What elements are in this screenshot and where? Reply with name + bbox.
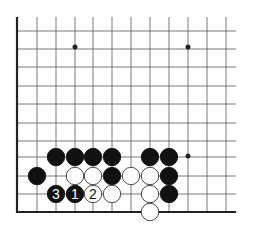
black-stone-1: 1 [66, 185, 83, 202]
black-stone-icon [141, 148, 158, 165]
white-stone [103, 185, 120, 202]
black-stone-icon [103, 167, 120, 184]
move-number: 1 [71, 186, 79, 202]
white-stone-icon [141, 203, 158, 220]
white-stone-2: 2 [84, 185, 101, 202]
star-point-icon [186, 154, 191, 159]
star-point-icon [186, 45, 191, 50]
black-stone-icon [47, 148, 64, 165]
white-stone-icon [141, 185, 158, 202]
white-stone [122, 167, 139, 184]
black-stone [47, 148, 64, 165]
black-stone [66, 148, 83, 165]
white-stone [84, 167, 101, 184]
white-stone-icon [141, 167, 158, 184]
black-stone-icon [28, 167, 45, 184]
white-stone-icon [122, 167, 139, 184]
white-stone [141, 185, 158, 202]
black-stone-icon [84, 148, 101, 165]
black-stone [103, 167, 120, 184]
move-number: 3 [52, 186, 60, 202]
white-stone [66, 167, 83, 184]
black-stone-icon [103, 148, 120, 165]
black-stone [160, 167, 177, 184]
black-stone [103, 148, 120, 165]
black-stone-icon [160, 167, 177, 184]
black-stone-icon [66, 148, 83, 165]
white-stone [141, 203, 158, 220]
go-board: 312 [0, 0, 255, 231]
white-stone-icon [66, 167, 83, 184]
black-stone [160, 185, 177, 202]
star-point-icon [73, 45, 78, 50]
move-number: 2 [89, 186, 97, 202]
black-stone [84, 148, 101, 165]
black-stone [141, 148, 158, 165]
stones: 312 [28, 148, 177, 220]
white-stone-icon [103, 185, 120, 202]
black-stone [28, 167, 45, 184]
black-stone-3: 3 [47, 185, 64, 202]
black-stone [160, 148, 177, 165]
black-stone-icon [160, 185, 177, 202]
black-stone-icon [160, 148, 177, 165]
white-stone-icon [84, 167, 101, 184]
white-stone [141, 167, 158, 184]
